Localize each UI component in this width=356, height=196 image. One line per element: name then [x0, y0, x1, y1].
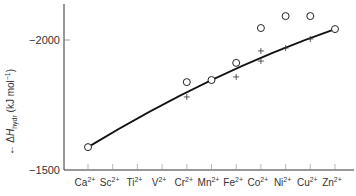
circle-marker [332, 26, 339, 33]
x-tick-label: Mn2+ [198, 176, 220, 188]
circle-markers [85, 13, 339, 151]
circle-marker [183, 79, 190, 86]
x-tick-label: Ca2+ [75, 176, 96, 188]
svg-text:← ΔHhydr (kJ mol−1): ← ΔHhydr (kJ mol−1) [4, 69, 19, 155]
x-tick-label: Ti2+ [126, 176, 142, 188]
y-tick-label-2000: −2000 [29, 34, 60, 46]
y-axis-label: ← ΔHhydr (kJ mol−1) [4, 69, 19, 155]
circle-marker [208, 77, 215, 84]
x-tick-label: Co2+ [248, 176, 269, 188]
x-tick-label: Cu2+ [297, 176, 318, 188]
x-tick-label: Fe2+ [223, 176, 243, 188]
y-tick-label-1500: −1500 [29, 164, 60, 176]
x-tick-labels: Ca2+Sc2+Ti2+V2+Cr2+Mn2+Fe2+Co2+Ni2+Cu2+Z… [75, 176, 342, 188]
circle-marker [282, 13, 289, 20]
circle-marker [257, 25, 264, 32]
plus-marker [233, 74, 239, 80]
x-ticks [88, 164, 335, 170]
x-tick-label: V2+ [152, 176, 167, 188]
trend-curve [88, 29, 335, 147]
plus-marker [258, 48, 264, 54]
x-tick-label: Ni2+ [274, 176, 291, 188]
cross-markers [184, 36, 313, 100]
x-tick-label: Zn2+ [322, 176, 342, 188]
x-tick-label: Cr2+ [175, 176, 194, 188]
plus-marker [184, 94, 190, 100]
chart: Ca2+Sc2+Ti2+V2+Cr2+Mn2+Fe2+Co2+Ni2+Cu2+Z… [0, 0, 356, 196]
circle-marker [307, 13, 314, 20]
x-tick-label: Sc2+ [100, 176, 120, 188]
circle-marker [233, 59, 240, 66]
circle-marker [85, 144, 92, 151]
